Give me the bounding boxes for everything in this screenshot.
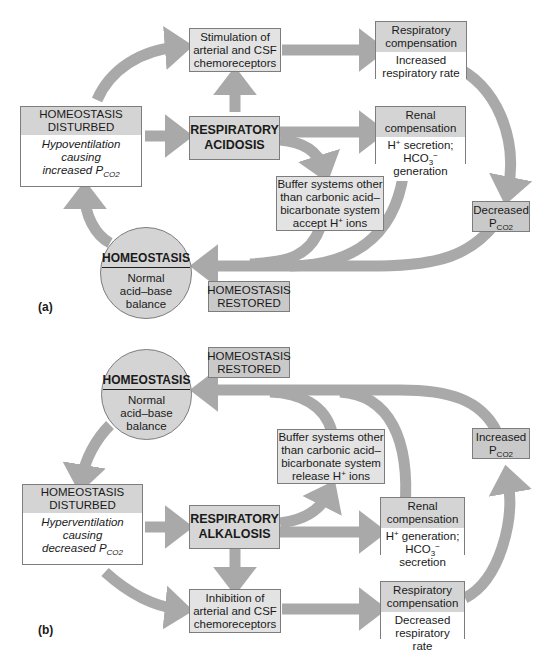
homeostasis-circle-a: HOMEOSTASIS Normal acid–base balance [100,227,192,319]
renal-compensation-box-b: Renal compensation H+ generation; HCO3− … [380,497,465,555]
decreased-pco2-box: Decreased PCO2 [472,201,530,232]
homeostasis-restored-box-b: HOMEOSTASIS RESTORED [208,347,290,378]
hypoventilation-text: Hypoventilation causing increased PCO2 [21,135,141,180]
stimulation-chemoreceptors-box: Stimulation of arterial and CSF chemorec… [189,28,281,72]
homeostasis-disturbed-box-b: HOMEOSTASIS DISTURBED Hyperventilation c… [22,484,143,565]
respiratory-alkalosis-box: RESPIRATORY ALKALOSIS [189,505,280,549]
inhibition-chemoreceptors-box: Inhibition of arterial and CSF chemorece… [189,589,281,633]
homeostasis-restored-box-a: HOMEOSTASIS RESTORED [208,281,290,312]
panel-label-b: (b) [38,623,53,637]
renal-compensation-box-a: Renal compensation H+ secretion; HCO3− g… [375,106,466,164]
respiratory-acidosis-box: RESPIRATORY ACIDOSIS [189,116,280,160]
homeostasis-disturbed-title-b: HOMEOSTASIS DISTURBED [23,485,142,513]
increased-pco2-box: Increased PCO2 [472,428,530,459]
buffer-systems-box-b: Buffer systems other than carbonic acid–… [277,429,385,484]
homeostasis-disturbed-box-a: HOMEOSTASIS DISTURBED Hypoventilation ca… [20,106,142,187]
hyperventilation-text: Hyperventilation causing decreased PCO2 [23,513,142,558]
respiratory-compensation-box-b: Respiratory compensation Decreased respi… [380,581,465,639]
homeostasis-disturbed-title-a: HOMEOSTASIS DISTURBED [21,107,141,135]
buffer-systems-box-a: Buffer systems other than carbonic acid–… [276,176,384,231]
homeostasis-circle-b: HOMEOSTASIS Normal acid–base balance [101,349,192,440]
respiratory-compensation-box-a: Respiratory compensation Increased respi… [375,21,467,79]
arrow-disturbed-to-chemoreceptors [97,47,178,100]
panel-label-a: (a) [38,300,53,314]
